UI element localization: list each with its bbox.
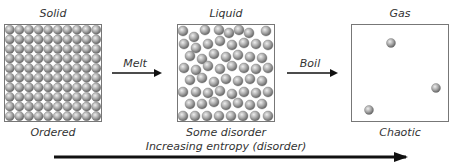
particle bbox=[215, 86, 225, 96]
particle bbox=[234, 25, 244, 35]
particle bbox=[92, 25, 101, 34]
particle bbox=[263, 63, 273, 73]
solid-particles bbox=[5, 25, 101, 121]
particle bbox=[72, 102, 81, 111]
particle bbox=[34, 44, 43, 53]
particle bbox=[72, 44, 81, 53]
particle bbox=[44, 64, 53, 73]
particle bbox=[24, 25, 33, 34]
particle bbox=[365, 106, 374, 115]
particle bbox=[257, 53, 267, 63]
particle bbox=[209, 97, 219, 107]
particle bbox=[34, 35, 43, 44]
particle bbox=[178, 111, 188, 121]
particle bbox=[53, 73, 62, 82]
particle bbox=[53, 83, 62, 92]
particle bbox=[251, 88, 261, 98]
particle bbox=[44, 83, 53, 92]
particle bbox=[44, 92, 53, 101]
liquid-caption: Some disorder bbox=[186, 127, 266, 138]
particle bbox=[203, 61, 213, 71]
particle bbox=[209, 77, 219, 87]
particle bbox=[72, 64, 81, 73]
particle bbox=[5, 102, 14, 111]
particle bbox=[24, 64, 33, 73]
particle bbox=[82, 112, 91, 121]
particle bbox=[15, 83, 24, 92]
particle bbox=[185, 75, 195, 85]
particle bbox=[92, 54, 101, 63]
particle bbox=[82, 83, 91, 92]
particle bbox=[24, 44, 33, 53]
particle bbox=[257, 99, 267, 109]
particle bbox=[200, 25, 210, 35]
particle bbox=[82, 54, 91, 63]
particle bbox=[261, 26, 271, 36]
boil-label: Boil bbox=[300, 58, 320, 69]
particle bbox=[387, 39, 396, 48]
solid-caption: Ordered bbox=[30, 127, 75, 138]
particle bbox=[251, 64, 261, 74]
particle bbox=[44, 54, 53, 63]
particle bbox=[44, 102, 53, 111]
particle bbox=[245, 74, 255, 84]
particle bbox=[178, 26, 188, 36]
particle bbox=[82, 44, 91, 53]
particle bbox=[197, 73, 207, 83]
particle bbox=[227, 61, 237, 71]
particle bbox=[53, 25, 62, 34]
particle bbox=[227, 40, 237, 50]
particle bbox=[82, 92, 91, 101]
particle bbox=[53, 54, 62, 63]
particle bbox=[44, 112, 53, 121]
particle bbox=[82, 73, 91, 82]
particle bbox=[432, 84, 441, 93]
particle bbox=[34, 64, 43, 73]
particle bbox=[245, 52, 255, 62]
gas-caption: Chaotic bbox=[379, 127, 421, 138]
liquid-particles bbox=[178, 25, 273, 121]
particle bbox=[82, 35, 91, 44]
particle bbox=[34, 83, 43, 92]
particle bbox=[72, 54, 81, 63]
particle bbox=[63, 73, 72, 82]
particle bbox=[5, 64, 14, 73]
particle bbox=[239, 38, 249, 48]
particle bbox=[239, 63, 249, 73]
gas-particles bbox=[365, 39, 441, 115]
particle bbox=[191, 87, 201, 97]
particle bbox=[53, 35, 62, 44]
particle bbox=[214, 111, 224, 121]
particle bbox=[227, 89, 237, 99]
particle bbox=[34, 25, 43, 34]
particle bbox=[209, 49, 219, 59]
particle bbox=[92, 92, 101, 101]
particle bbox=[53, 112, 62, 121]
particle bbox=[263, 87, 273, 97]
particle bbox=[24, 112, 33, 121]
particle bbox=[53, 102, 62, 111]
particle bbox=[44, 25, 53, 34]
particle bbox=[72, 35, 81, 44]
particle bbox=[24, 73, 33, 82]
particle bbox=[5, 35, 14, 44]
particle bbox=[179, 39, 189, 49]
particle bbox=[5, 73, 14, 82]
particle bbox=[24, 35, 33, 44]
particle bbox=[221, 52, 231, 62]
particle bbox=[5, 92, 14, 101]
particle bbox=[15, 112, 24, 121]
particle bbox=[63, 83, 72, 92]
particle bbox=[257, 76, 267, 86]
particle bbox=[233, 98, 243, 108]
particle bbox=[15, 64, 24, 73]
particle bbox=[263, 40, 273, 50]
particle bbox=[185, 51, 195, 61]
particle bbox=[24, 102, 33, 111]
particle bbox=[15, 92, 24, 101]
particle bbox=[5, 83, 14, 92]
particle bbox=[63, 25, 72, 34]
particle bbox=[72, 73, 81, 82]
particle bbox=[92, 73, 101, 82]
particle bbox=[203, 39, 213, 49]
